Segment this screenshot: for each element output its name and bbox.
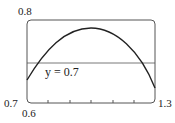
plot-frame [27,20,155,103]
y-max-label: 0.8 [18,6,32,17]
reference-line-label: y = 0.7 [45,67,79,78]
x-min-label: 0.6 [22,108,36,119]
x-max-label: 1.3 [158,98,172,109]
chart-plot [0,0,175,123]
curve-line [27,28,155,88]
y-min-label: 0.7 [4,98,18,109]
